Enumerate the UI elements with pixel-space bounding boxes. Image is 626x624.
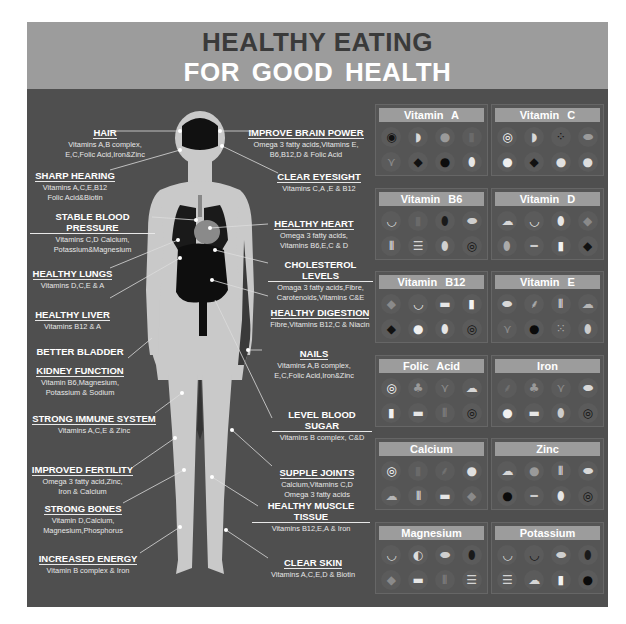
egg-icon: ⬮ <box>551 211 571 231</box>
label-text: Vitamin B6,Magnesium, Potassium & Sodium <box>30 378 130 397</box>
cheese-icon: ▬ <box>524 403 544 423</box>
label-title: HEALTHY LIVER <box>35 309 110 321</box>
label-title: SUPPLE JOINTS <box>280 467 355 479</box>
label-text: Omega 3 fatty acids, Vitamins B6,E,C & D <box>268 231 360 250</box>
sandwich-icon: ☰ <box>408 236 428 256</box>
fish-icon: ━ <box>524 236 544 256</box>
label-title: CLEAR SKIN <box>284 557 342 569</box>
cheese-icon: ▬ <box>435 294 455 314</box>
kiwi-icon: ◐ <box>408 545 428 565</box>
nutrient-title: Vitamin A <box>379 108 484 122</box>
melon-slices-icon: ◗ <box>408 127 428 147</box>
label-supple-joints: SUPPLE JOINTS Calcium,Vitamins C,D Omega… <box>272 461 362 499</box>
label-text: Vitamins A,C,E & Zinc <box>30 426 158 436</box>
label-text: Vitamins B12 & A <box>30 322 115 332</box>
nutrient-box-zinc: Zinc☁●⦀⬬●━⬮◎ <box>491 438 604 510</box>
cauliflower-icon: ● <box>497 152 517 172</box>
label-title: LEVEL BLOOD SUGAR <box>272 409 372 432</box>
cauliflower-head-icon: ● <box>462 461 482 481</box>
mushrooms-icon: ☁ <box>462 378 482 398</box>
papaya-icon: ⬬ <box>578 127 598 147</box>
food-icons-grid: ◡◡⬬⬮☰☁▮● <box>492 540 603 592</box>
dark-fruit-icon: ● <box>578 570 598 590</box>
bean-icon: ⬬ <box>497 294 517 314</box>
label-improved-fertility: IMPROVED FERTILITY Omega 3 fatty acid,Zi… <box>30 458 135 496</box>
label-healthy-liver: HEALTHY LIVER Vitamins B12 & A <box>30 303 115 332</box>
label-text: Fibre,Vitamins B12,C & Niacin <box>266 320 374 330</box>
nutrient-box-calcium: Calcium◎▮⸙●☁⦀▬◆ <box>375 438 488 510</box>
nutrient-box-vitamin-c: Vitamin C◎◗⁘⬬●◆●● <box>491 104 604 176</box>
egg-icon: ⬮ <box>435 319 455 339</box>
carrots-icon: ▮ <box>462 127 482 147</box>
onion-icon: ● <box>578 152 598 172</box>
food-icons-grid: ⬬⸙⦀☁⋎●⁙⬮ <box>492 289 603 341</box>
label-title-2: KIDNEY FUNCTION <box>36 365 123 377</box>
seeds-icon: ⦀ <box>551 294 571 314</box>
banana-icon: ◡ <box>497 545 517 565</box>
label-title: STABLE BLOOD PRESSURE <box>30 211 155 234</box>
nutrient-title: Calcium <box>379 442 484 456</box>
label-healthy-lungs: HEALTHY LUNGS Vitamins D,C,E & A <box>30 262 115 291</box>
label-text: Omega 3 fatty acids,Vitamins E, B6,B12,D… <box>245 140 367 159</box>
label-title: CHOLESTEROL LEVELS <box>268 259 373 282</box>
milk-bottle-icon: ▮ <box>381 403 401 423</box>
sandwich-icon: ☰ <box>497 570 517 590</box>
carrots-icon: ▮ <box>408 211 428 231</box>
almonds-icon: ⬮ <box>497 236 517 256</box>
sausage-icon: ⬬ <box>462 211 482 231</box>
label-title: BETTER BLADDER <box>36 346 123 357</box>
nutrient-box-magnesium: Magnesium◡◐⬬⬮◆▬⦀☰ <box>375 522 488 594</box>
label-healthy-muscle-tissue: HEALTHY MUSCLE TISSUE Vitamins B12,E,A &… <box>252 500 370 534</box>
pumpkin-icon: ● <box>524 461 544 481</box>
asparagus-icon: ⋎ <box>551 378 571 398</box>
egg-icon: ⬮ <box>551 486 571 506</box>
label-text: Vitamins A,C,E,D & Biotin <box>258 570 368 580</box>
mushrooms-icon: ☁ <box>497 461 517 481</box>
label-title: HEALTHY LUNGS <box>33 268 113 280</box>
label-title: STRONG BONES <box>44 503 121 515</box>
label-text: Vitamins B12,E,A & Iron <box>252 524 370 534</box>
nutrient-box-vitamin-e: Vitamin E⬬⸙⦀☁⋎●⁙⬮ <box>491 271 604 343</box>
seeds-icon: ⦀ <box>551 461 571 481</box>
asparagus-bunch-icon: ⦀ <box>435 403 455 423</box>
avocado-icon: ⬮ <box>435 211 455 231</box>
liver-icon: ◆ <box>578 236 598 256</box>
seeds-mix-icon: ⁙ <box>551 319 571 339</box>
label-text: Vitamins A,C,E,B12 Folic Acid&Biotin <box>30 183 120 202</box>
label-title: STRONG IMMUNE SYSTEM <box>32 413 156 425</box>
nutrient-box-vitamin-a: Vitamin A◉◗●▮⋎◆●⬮ <box>375 104 488 176</box>
cheese-icon: ▬ <box>408 570 428 590</box>
food-icons-grid: ◎◗⁘⬬●◆●● <box>492 122 603 174</box>
nut-icon: ☁ <box>381 486 401 506</box>
nutrient-title: Vitamin B6 <box>379 192 484 206</box>
label-text: Vitamins C,A ,E & B12 <box>275 184 363 194</box>
label-strong-immune-system: STRONG IMMUNE SYSTEM Vitamins A,C,E & Zi… <box>30 407 158 436</box>
label-hair: HAIR Vitamins A,B complex, E,C,Folic Aci… <box>40 121 170 159</box>
label-text: Vitamins D,C,E & A <box>30 281 115 291</box>
mushrooms-icon: ☁ <box>524 570 544 590</box>
label-text: Vitamins A,B complex, E,C,Folic Acid,Iro… <box>40 140 170 159</box>
label-level-blood-sugar: LEVEL BLOOD SUGAR Vitamins B complex, C&… <box>272 409 372 443</box>
nutrient-title: Iron <box>495 359 600 373</box>
nutrient-title: Zinc <box>495 442 600 456</box>
olive-oil-icon: ● <box>524 319 544 339</box>
food-icons-grid: ☁●⦀⬬●━⬮◎ <box>492 456 603 508</box>
sausage-icon: ⬬ <box>551 545 571 565</box>
label-healthy-heart: HEALTHY HEART Omega 3 fatty acids, Vitam… <box>268 212 360 250</box>
nutrient-title: Folic Acid <box>379 359 484 373</box>
milk-bottle-icon: ▮ <box>462 294 482 314</box>
avocado-icon: ⬮ <box>578 545 598 565</box>
spiral-icon: ◎ <box>462 403 482 423</box>
liver-icon: ◆ <box>524 152 544 172</box>
spinach-icon: ⸙ <box>497 378 517 398</box>
meat-icon: ◆ <box>462 486 482 506</box>
label-text: Vitamins A,B complex, E,C,Folic Acid,Iro… <box>264 361 364 380</box>
berries-icon: ⁘ <box>551 127 571 147</box>
label-sharp-hearing: SHARP HEARING Vitamins A,C,E,B12 Folic A… <box>30 164 120 202</box>
cheese-icon: ▬ <box>408 403 428 423</box>
food-icons-grid: ☁◡⬮◆⬮━▮◆ <box>492 206 603 258</box>
asparagus-icon: ⋎ <box>381 152 401 172</box>
spiral-icon: ◎ <box>578 486 598 506</box>
asparagus-icon: ⋎ <box>497 319 517 339</box>
melon-slices-icon: ◗ <box>524 127 544 147</box>
